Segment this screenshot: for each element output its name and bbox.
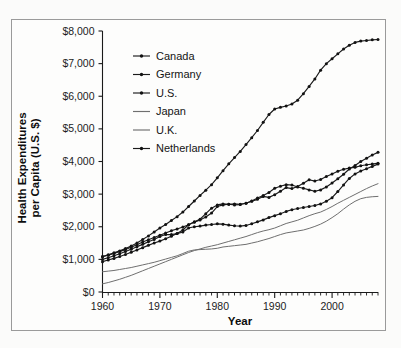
data-point [164, 223, 167, 226]
data-point [158, 240, 161, 243]
data-point [147, 240, 150, 243]
data-point [279, 185, 282, 188]
data-point [112, 251, 115, 254]
data-point [267, 216, 270, 219]
data-point [308, 85, 311, 88]
x-tick-label-1990: 1990 [263, 300, 287, 312]
data-point [336, 190, 339, 193]
data-point [193, 199, 196, 202]
data-point [147, 234, 150, 237]
data-point [181, 226, 184, 229]
data-point [336, 52, 339, 55]
series-uk [103, 196, 379, 271]
data-point [319, 188, 322, 191]
legend-item-germany[interactable]: Germany [133, 68, 202, 80]
legend-item-netherlands[interactable]: Netherlands [133, 142, 216, 154]
data-point [141, 238, 144, 241]
data-point [256, 220, 259, 223]
data-point [279, 106, 282, 109]
data-point [153, 238, 156, 241]
data-point [371, 38, 374, 41]
data-point [290, 183, 293, 186]
line-chart: $0$1,000$2,000$3,000$4,000$5,000$6,000$7… [0, 0, 401, 348]
legend-marker-icon [140, 73, 143, 76]
legend-label: U.K. [156, 124, 177, 136]
data-point [336, 177, 339, 180]
data-point [359, 169, 362, 172]
data-point [262, 218, 265, 221]
data-point [319, 202, 322, 205]
x-axis-title: Year [228, 315, 253, 327]
data-point [199, 194, 202, 197]
data-point [365, 39, 368, 42]
y-tick-label-0: $0 [83, 286, 95, 298]
y-tick-label-7000: $7,000 [62, 57, 94, 69]
data-point [130, 245, 133, 248]
legend-group: CanadaGermanyU.S.JapanU.K.Netherlands [133, 50, 216, 155]
data-point [308, 205, 311, 208]
legend-item-uk[interactable]: U.K. [133, 124, 177, 136]
data-point [158, 235, 161, 238]
legend-item-japan[interactable]: Japan [133, 105, 186, 117]
x-tick-labels: 19601970198019902000 [91, 300, 344, 312]
data-point [377, 38, 380, 41]
data-point [336, 170, 339, 173]
data-point [296, 185, 299, 188]
data-point [267, 196, 270, 199]
data-point [118, 252, 121, 255]
data-point [273, 214, 276, 217]
data-point [204, 189, 207, 192]
data-point [107, 256, 110, 259]
data-point [204, 224, 207, 227]
data-point [302, 182, 305, 185]
data-point [164, 237, 167, 240]
data-point [181, 211, 184, 214]
legend-item-canada[interactable]: Canada [133, 50, 195, 62]
data-point [250, 200, 253, 203]
data-point [130, 251, 133, 254]
data-point [342, 168, 345, 171]
data-point [233, 156, 236, 159]
data-point [124, 253, 127, 256]
x-tick-label-1970: 1970 [148, 300, 172, 312]
data-point [176, 215, 179, 218]
data-point [285, 210, 288, 213]
data-point [147, 244, 150, 247]
data-point [193, 225, 196, 228]
data-point [279, 212, 282, 215]
legend-marker-icon [140, 147, 143, 150]
legend-item-us[interactable]: U.S. [133, 87, 177, 99]
data-point [313, 180, 316, 183]
data-point [112, 254, 115, 257]
data-point [296, 207, 299, 210]
data-point [216, 176, 219, 179]
data-point [354, 41, 357, 44]
data-point [164, 233, 167, 236]
legend-label: Germany [156, 68, 202, 80]
data-point [176, 232, 179, 235]
series-line-japan [103, 184, 379, 284]
data-point [130, 248, 133, 251]
data-point [239, 203, 242, 206]
y-tick-label-4000: $4,000 [62, 155, 94, 167]
data-point [365, 163, 368, 166]
data-point [377, 163, 380, 166]
data-point [101, 258, 104, 261]
data-point [331, 182, 334, 185]
data-point [222, 169, 225, 172]
data-point [290, 103, 293, 106]
data-point [319, 178, 322, 181]
data-point [342, 47, 345, 50]
data-point [210, 223, 213, 226]
legend-marker-icon [140, 91, 143, 94]
legend-label: Canada [156, 50, 195, 62]
data-point [135, 245, 138, 248]
data-point [325, 62, 328, 65]
data-point [267, 191, 270, 194]
data-point [371, 153, 374, 156]
data-point [348, 167, 351, 170]
data-point [135, 242, 138, 245]
data-point [365, 167, 368, 170]
data-point [262, 121, 265, 124]
data-point [285, 183, 288, 186]
